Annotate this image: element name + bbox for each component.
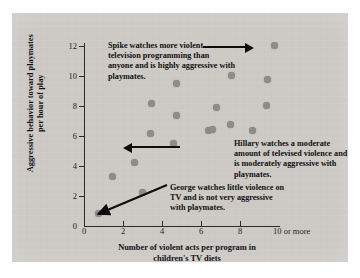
x-tick-label: 6 <box>199 227 203 236</box>
annotation-george-arrow <box>91 183 169 219</box>
y-tick-label: 0 <box>60 222 77 231</box>
scatter-point <box>213 104 220 111</box>
annotation-spike-arrow-head <box>245 43 254 53</box>
y-tick-label: 6 <box>60 132 77 141</box>
y-tick-mark <box>79 136 84 137</box>
scatter-point <box>131 159 138 166</box>
annotation-george: George watches little violence on TV and… <box>170 183 288 214</box>
figure-page: 024681012 0246810 or more Aggressive beh… <box>0 0 360 278</box>
x-tick-label: 10 or more <box>273 227 310 236</box>
x-axis-title-line2: children's TV diets <box>153 254 220 263</box>
y-tick-label: 4 <box>60 162 77 171</box>
y-tick-label: 12 <box>60 42 77 51</box>
y-tick-mark <box>79 166 84 167</box>
y-tick-mark <box>79 196 84 197</box>
scatter-point <box>227 121 234 128</box>
scatter-point <box>147 130 154 137</box>
x-tick-label: 4 <box>160 227 164 236</box>
x-tick-label: 0 <box>82 227 86 236</box>
annotation-hillary-arrow-line <box>132 146 180 148</box>
scatter-point <box>109 173 116 180</box>
scatter-point <box>209 126 216 133</box>
y-tick-label: 2 <box>60 192 77 201</box>
y-tick-label: 8 <box>60 102 77 111</box>
y-axis-line <box>84 43 85 227</box>
chart-panel: 024681012 0246810 or more Aggressive beh… <box>12 13 348 262</box>
scatter-point <box>264 76 271 83</box>
x-tick-label: 8 <box>238 227 242 236</box>
y-axis-title-line1: Aggressive behavior toward playmates <box>26 34 35 172</box>
scatter-point <box>173 112 180 119</box>
y-axis-title: Aggressive behavior toward playmates per… <box>26 18 47 188</box>
scatter-point <box>263 102 270 109</box>
y-tick-mark <box>79 46 84 47</box>
scatter-point <box>249 127 256 134</box>
scatter-point-spike <box>271 42 278 49</box>
y-tick-mark <box>79 106 84 107</box>
scatter-point <box>148 100 155 107</box>
y-tick-label: 10 <box>60 72 77 81</box>
x-axis-line <box>84 226 280 227</box>
x-axis-title: Number of violent acts per program in ch… <box>72 243 302 264</box>
annotation-hillary-arrow-head <box>123 143 132 153</box>
annotation-spike-arrow-line <box>203 46 248 48</box>
annotation-hillary: Hillary watches a moderate amount of tel… <box>234 139 354 180</box>
y-axis-title-line2: per hour of play <box>36 74 45 132</box>
x-axis-title-line1: Number of violent acts per program in <box>118 243 256 252</box>
y-tick-mark <box>79 76 84 77</box>
x-tick-label: 2 <box>121 227 125 236</box>
